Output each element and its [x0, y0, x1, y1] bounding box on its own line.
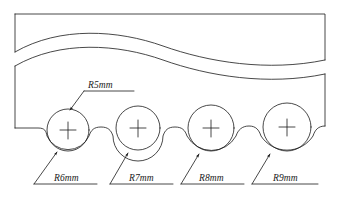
leader-line-r8 [181, 154, 199, 184]
drawing-canvas: R5mm R6mm R7mm R8mm R9mm [0, 0, 340, 204]
upper-band-top-edge [15, 14, 325, 60]
center-cross-2 [130, 120, 146, 137]
leader-line-r7 [110, 153, 128, 184]
tooth-group-2 [116, 106, 160, 150]
lower-band-outline [15, 47, 325, 128]
dimension-label-r8: R8mm [198, 173, 224, 183]
center-cross-3 [203, 120, 219, 137]
technical-drawing-svg: R5mm R6mm R7mm R8mm R9mm [0, 0, 340, 204]
tooth-group-4 [263, 103, 311, 151]
scalloped-bottom-profile [15, 126, 325, 161]
center-cross-1 [60, 122, 76, 139]
tooth-group-3 [188, 105, 234, 151]
lower-band-wave-edge [15, 47, 325, 79]
upper-band-outline [15, 14, 325, 65]
dimension-label-r7: R7mm [128, 173, 154, 183]
tooth-group-1 [47, 109, 89, 151]
construction-circles-group [47, 103, 311, 151]
leader-line-r9 [252, 154, 270, 184]
dimension-label-r5: R5mm [87, 80, 113, 90]
dimension-label-r6: R6mm [53, 173, 79, 183]
dimension-labels-group: R5mm R6mm R7mm R8mm R9mm [53, 80, 298, 183]
scallop-run-path [15, 126, 325, 161]
leader-r5 [70, 91, 134, 110]
leader-line-r5 [70, 91, 84, 110]
dimension-label-r9: R9mm [272, 173, 298, 183]
center-cross-4 [279, 119, 295, 136]
